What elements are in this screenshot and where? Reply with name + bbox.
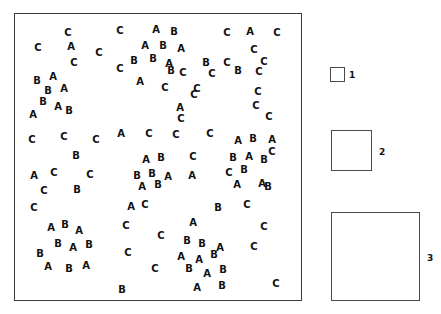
quadrat-square-1 [330,67,345,82]
point-pattern-figure: CCABCACCACABACCBBABCCBACBCCBCBAACCBCCABA… [0,0,441,314]
quadrat-label-2: 2 [379,148,385,157]
quadrat-legend: 123 [0,0,441,314]
quadrat-label-3: 3 [427,254,433,263]
quadrat-label-1: 1 [349,71,355,80]
quadrat-square-2 [331,130,372,171]
quadrat-square-3 [331,212,420,301]
